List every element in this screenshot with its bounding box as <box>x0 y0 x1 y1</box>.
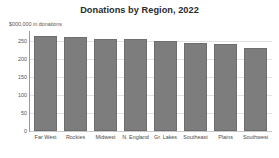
y-tick-250: 250 <box>1 38 27 44</box>
bar-far-west[interactable] <box>34 36 57 131</box>
y-tick-100: 100 <box>1 92 27 98</box>
bar-rockies[interactable] <box>64 37 87 131</box>
plot-area <box>30 31 272 131</box>
bar-gr-lakes[interactable] <box>154 41 177 131</box>
bar-midwest[interactable] <box>94 39 117 131</box>
bar-chart: Donations by Region, 2022 $000,000 in do… <box>0 0 279 158</box>
y-tick-150: 150 <box>1 74 27 80</box>
bar-n-england[interactable] <box>124 39 147 131</box>
y-tick-50: 50 <box>1 110 27 116</box>
y-tick-200: 200 <box>1 56 27 62</box>
chart-title: Donations by Region, 2022 <box>0 5 279 15</box>
x-tick-southwest: Southwest <box>232 134 279 141</box>
bar-southwest[interactable] <box>244 48 267 131</box>
bar-plains[interactable] <box>214 44 237 131</box>
x-axis-baseline <box>30 131 272 132</box>
bar-southeast[interactable] <box>184 43 207 131</box>
x-axis-tick-labels: Far West Rockies Midwest N. England Gr. … <box>30 134 272 148</box>
